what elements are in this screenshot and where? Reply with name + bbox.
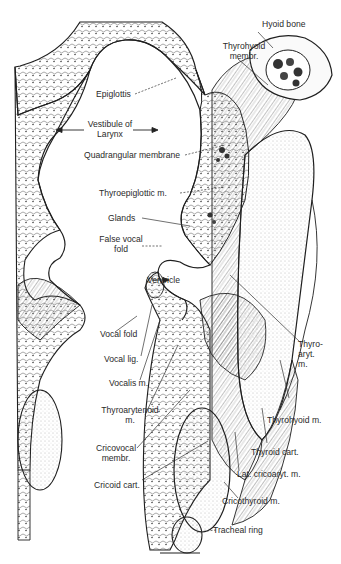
label-thyrohyoid-m: Thyrohyoid m. <box>267 415 321 425</box>
label-vocalis-m: Vocalis m. <box>109 378 148 388</box>
label-cricothyroid-m: Cricothyroid m. <box>222 496 280 506</box>
label-ventricle: Ventricle <box>147 275 180 285</box>
label-cricovocal-membr: Cricovocal membr. <box>90 443 142 463</box>
label-vestibule-of-larynx: Vestibule of Larynx <box>85 119 135 139</box>
label-vocal-fold: Vocal fold <box>100 329 137 339</box>
label-vestibule-line1: Vestibule of <box>85 119 135 129</box>
label-false-vocal-fold: False vocal fold <box>96 234 146 254</box>
label-cricovocal-membr-line2: membr. <box>90 453 142 463</box>
thyroid-cartilage <box>238 131 317 441</box>
label-thyrohyoid-membr-line1: Thyrohyoid <box>214 41 274 51</box>
label-lat-cricoaryt-m: Lat. cricoaryt. m. <box>237 469 301 479</box>
label-quadrangular-membrane: Quadrangular membrane <box>84 150 180 160</box>
label-thyroarytenoid-m: Thyroarytenoid m. <box>99 405 161 425</box>
label-thyro-aryt-m: Thyro- aryt. m. <box>298 339 323 369</box>
label-hyoid-bone: Hyoid bone <box>262 19 305 29</box>
label-glands: Glands <box>108 213 135 223</box>
label-thyroarytenoid-m-line2: m. <box>99 415 161 425</box>
label-thyro-aryt-m-line2: aryt. <box>298 349 323 359</box>
label-thyrohyoid-membr-line2: membr. <box>214 51 274 61</box>
label-thyro-aryt-m-line3: m. <box>298 359 323 369</box>
label-thyrohyoid-membr: Thyrohyoid membr. <box>214 41 274 61</box>
label-thyroepiglottic-m: Thyroepiglottic m. <box>99 188 167 198</box>
label-thyroarytenoid-m-line1: Thyroarytenoid <box>99 405 161 415</box>
label-vocal-lig: Vocal lig. <box>104 354 138 364</box>
label-cricovocal-membr-line1: Cricovocal <box>90 443 142 453</box>
cricoid-cartilage <box>174 408 230 532</box>
label-epiglottis: Epiglottis <box>96 89 131 99</box>
label-thyro-aryt-m-line1: Thyro- <box>298 339 323 349</box>
label-cricoid-cart: Cricoid cart. <box>94 480 140 490</box>
epiglottis-arch <box>15 22 205 115</box>
label-vestibule-line2: Larynx <box>85 129 135 139</box>
label-false-vocal-fold-line1: False vocal <box>96 234 146 244</box>
label-false-vocal-fold-line2: fold <box>96 244 146 254</box>
label-tracheal-ring: Tracheal ring <box>213 525 263 535</box>
label-thyroid-cart: Thyroid cart. <box>251 447 299 457</box>
